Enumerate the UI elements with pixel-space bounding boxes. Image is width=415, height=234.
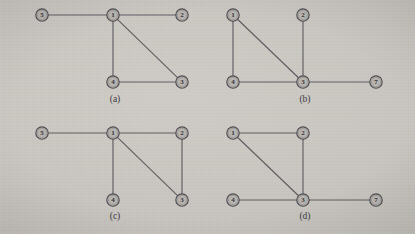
node-label: 3 [301,78,305,86]
graph-node: 7 [370,194,382,206]
graph-node: 5 [36,9,48,21]
graph-node: 2 [176,9,188,21]
node-label: 7 [374,78,378,86]
node-label: 7 [374,196,378,204]
node-label: 5 [40,129,44,137]
graph-edge [117,19,177,77]
graph-node: 4 [227,194,239,206]
graph-node: 4 [107,194,119,206]
graph-panel: 51243(a) [36,9,188,105]
node-label: 4 [111,196,115,204]
node-label: 2 [180,11,184,19]
node-label: 1 [231,129,235,137]
edge-layer [48,133,182,196]
graph-node: 3 [297,76,309,88]
node-label: 4 [231,78,235,86]
panel-caption: (d) [299,211,310,222]
graph-node: 3 [176,76,188,88]
graph-node: 1 [227,9,239,21]
edge-layer [48,15,177,82]
graph-edge [237,137,298,195]
edge-layer [237,133,369,200]
panel-caption: (b) [299,94,310,105]
graph-panel: 51243(c) [36,127,188,222]
node-label: 2 [301,11,305,19]
node-label: 4 [111,78,115,86]
edge-layer [233,19,370,82]
panel-caption: (a) [110,94,121,105]
node-label: 3 [301,196,305,204]
graph-figure-page: 51243(a)12437(b)51243(c)12437(d) [0,0,415,234]
graph-edge [117,137,177,195]
graph-panel: 12437(b) [227,9,382,105]
graph-figure-canvas: 51243(a)12437(b)51243(c)12437(d) [0,0,415,234]
graph-node: 3 [176,194,188,206]
node-label: 1 [231,11,235,19]
graph-panel: 12437(d) [227,127,382,222]
graph-node: 2 [297,127,309,139]
graph-node: 3 [297,194,309,206]
graph-node: 2 [176,127,188,139]
node-label: 3 [180,196,184,204]
node-label: 3 [180,78,184,86]
node-label: 1 [111,129,115,137]
graph-node: 4 [107,76,119,88]
graph-node: 7 [370,76,382,88]
graph-node: 1 [107,9,119,21]
panel-caption: (c) [110,211,121,222]
node-label: 2 [180,129,184,137]
graph-node: 1 [227,127,239,139]
graph-node: 5 [36,127,48,139]
node-label: 2 [301,129,305,137]
graph-edge [237,19,298,77]
graph-node: 1 [107,127,119,139]
graph-node: 4 [227,76,239,88]
node-label: 5 [40,11,44,19]
node-label: 1 [111,11,115,19]
graph-node: 2 [297,9,309,21]
node-label: 4 [231,196,235,204]
